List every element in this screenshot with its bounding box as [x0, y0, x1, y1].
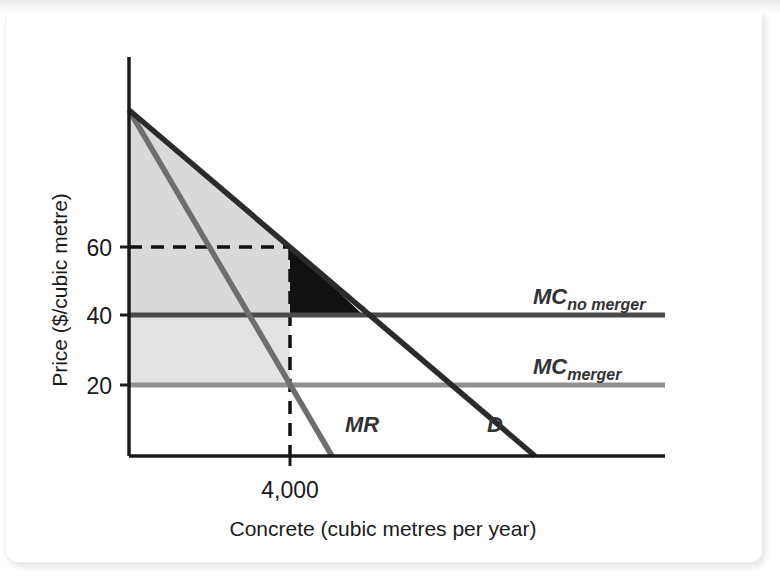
mr-curve-label: MR — [345, 412, 379, 437]
economics-chart: 60 40 20 4,000 Price ($/cubic metre) Con… — [0, 0, 780, 588]
mc-merger-label-sub: merger — [567, 366, 622, 383]
x-tick-label-4000: 4,000 — [261, 477, 319, 503]
demand-curve-label: D — [487, 412, 503, 437]
mc-merger-label-main: MC — [533, 354, 568, 379]
mc-no-merger-label-main: MC — [533, 284, 568, 309]
producer-surplus-region — [129, 315, 290, 385]
figure-card: 60 40 20 4,000 Price ($/cubic metre) Con… — [0, 0, 780, 588]
y-tick-label-20: 20 — [86, 373, 112, 399]
y-axis-title: Price ($/cubic metre) — [48, 193, 71, 387]
mc-no-merger-label: MCno merger — [533, 284, 646, 313]
y-tick-label-40: 40 — [86, 303, 112, 329]
mc-no-merger-label-sub: no merger — [567, 296, 646, 313]
y-tick-label-60: 60 — [86, 235, 112, 261]
x-axis-title: Concrete (cubic metres per year) — [230, 517, 537, 540]
consumer-surplus-region — [129, 110, 290, 315]
mc-merger-label: MCmerger — [533, 354, 622, 383]
